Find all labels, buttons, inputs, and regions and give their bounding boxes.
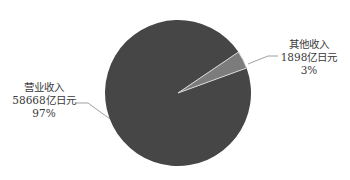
label-operating-name: 营业收入 bbox=[8, 81, 80, 94]
label-other-name: 其他收入 bbox=[278, 38, 340, 51]
label-other-revenue: 其他收入 1898亿日元 3% bbox=[278, 38, 340, 77]
label-operating-value: 58668亿日元 bbox=[8, 94, 80, 107]
label-operating-revenue: 营业收入 58668亿日元 97% bbox=[8, 81, 80, 120]
label-other-pct: 3% bbox=[278, 64, 340, 77]
label-other-value: 1898亿日元 bbox=[278, 51, 340, 64]
leader-line-operating bbox=[76, 103, 110, 119]
leader-line-other bbox=[248, 56, 278, 64]
label-operating-pct: 97% bbox=[8, 107, 80, 120]
